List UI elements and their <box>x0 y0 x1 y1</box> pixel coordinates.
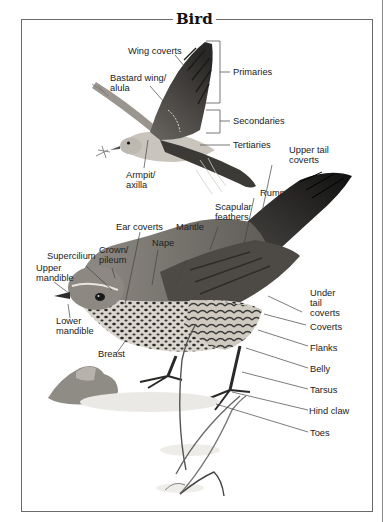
label-lower-mandible: Lower mandible <box>56 316 94 336</box>
ground-scene <box>48 324 246 496</box>
label-tertiaries: Tertiaries <box>233 140 271 150</box>
label-crown: Crown/ pileum <box>99 245 128 265</box>
label-wing-coverts: Wing coverts <box>128 46 182 56</box>
label-breast: Breast <box>98 349 125 359</box>
label-flanks: Flanks <box>310 343 337 353</box>
label-bastard-wing: Bastard wing/ alula <box>110 73 166 93</box>
label-toes: Toes <box>310 428 330 438</box>
label-coverts: Coverts <box>310 322 342 332</box>
label-mantle: Mantle <box>176 222 204 232</box>
label-supercilium: Supercilium <box>47 251 96 261</box>
label-armpit: Armpit/ axilla <box>126 170 155 190</box>
label-scapular-feathers: Scapular feathers <box>215 202 252 222</box>
label-rump: Rump <box>260 188 285 198</box>
diagram-title: Bird <box>173 10 216 28</box>
bird-illustration <box>0 0 386 522</box>
flying-bird <box>92 42 256 194</box>
label-ear-coverts: Ear coverts <box>116 222 163 232</box>
label-under-tail-coverts: Under tail coverts <box>310 288 340 318</box>
label-nape: Nape <box>152 238 174 248</box>
label-primaries: Primaries <box>233 67 272 77</box>
label-hind-claw: Hind claw <box>309 406 349 416</box>
label-upper-mandible: Upper mandible <box>36 263 74 283</box>
label-upper-tail-coverts: Upper tail coverts <box>289 145 329 165</box>
label-tarsus: Tarsus <box>310 385 337 395</box>
label-secondaries: Secondaries <box>233 116 285 126</box>
label-belly: Belly <box>310 364 330 374</box>
